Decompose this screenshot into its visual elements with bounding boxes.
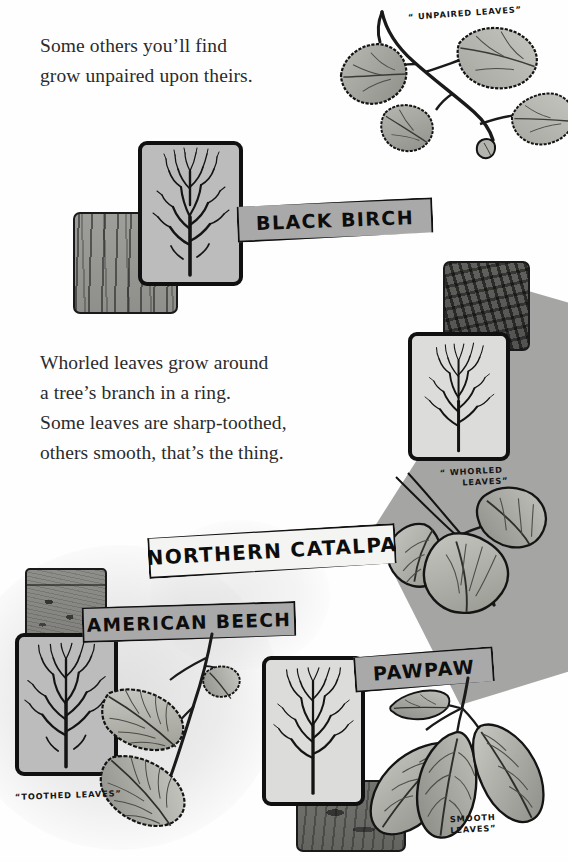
catalpa-leaf-whorl xyxy=(378,465,568,645)
sign-northern-catalpa-label: NORTHERN CATALPA xyxy=(146,532,398,570)
illustrated-book-page: Some others you’ll find grow unpaired up… xyxy=(0,0,568,862)
verse-whorled-line-3: Some leaves are sharp-toothed, xyxy=(40,408,287,438)
tree-silhouette-icon xyxy=(142,145,239,282)
birch-tree-card xyxy=(138,141,243,286)
catalpa-tree-card xyxy=(408,332,510,461)
tree-silhouette-icon xyxy=(266,660,361,802)
sign-black-birch-label: BLACK BIRCH xyxy=(256,206,415,234)
verse-unpaired-line-2: grow unpaired upon theirs. xyxy=(40,61,253,91)
pawpaw-tree-card xyxy=(262,656,365,806)
verse-unpaired: Some others you’ll find grow unpaired up… xyxy=(40,31,253,91)
verse-whorled-line-4: others smooth, that’s the thing. xyxy=(40,438,287,468)
callout-toothed-leaves: “TOOTHED LEAVES” xyxy=(15,788,122,803)
birch-leaf-spray xyxy=(330,0,568,200)
tree-silhouette-icon xyxy=(412,336,506,457)
verse-whorled: Whorled leaves grow around a tree’s bran… xyxy=(40,348,287,468)
sign-northern-catalpa[interactable]: NORTHERN CATALPA xyxy=(147,523,397,579)
verse-unpaired-line-1: Some others you’ll find xyxy=(40,31,253,61)
sign-black-birch[interactable]: BLACK BIRCH xyxy=(236,197,433,242)
verse-whorled-line-1: Whorled leaves grow around xyxy=(40,348,287,378)
beech-leaf-spray xyxy=(116,632,256,862)
verse-whorled-line-2: a tree’s branch in a ring. xyxy=(40,378,287,408)
callout-smooth-leaves: SMOOTH LEAVES” xyxy=(449,812,496,836)
tree-silhouette-icon xyxy=(19,637,114,772)
